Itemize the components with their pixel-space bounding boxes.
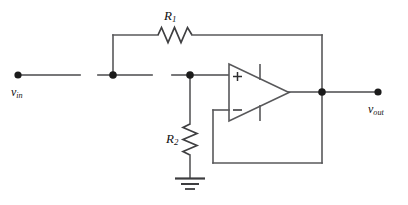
vout-label: vout: [368, 102, 384, 117]
vin-terminal-dot-icon: [14, 71, 21, 78]
resistor-r2-symbol: R: [166, 131, 174, 146]
resistor-r1-subscript: 1: [172, 14, 176, 24]
resistor-r2-zigzag-icon: [183, 124, 197, 155]
vout-subscript: out: [373, 108, 383, 117]
circuit-diagram: R1 R2 vin vout: [0, 0, 408, 205]
output-node-dot-icon: [318, 88, 326, 96]
resistor-r1-symbol: R: [164, 8, 172, 23]
vout-terminal-dot-icon: [374, 88, 381, 95]
resistor-r2-label: R2: [166, 131, 178, 147]
vin-subscript: in: [16, 91, 22, 100]
vin-label: vin: [11, 85, 23, 100]
resistor-r1-zigzag-icon: [158, 28, 192, 43]
input-branch-node-dot-icon: [109, 71, 117, 79]
resistor-r1-label: R1: [164, 8, 176, 24]
circuit-schematic-canvas: [0, 0, 408, 205]
resistor-r2-subscript: 2: [174, 137, 178, 147]
noninverting-input-node-dot-icon: [186, 71, 194, 79]
